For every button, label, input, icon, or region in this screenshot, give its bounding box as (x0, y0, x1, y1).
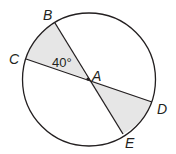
label-a: A (91, 68, 101, 84)
label-b: B (43, 7, 52, 23)
circle-diagram: B C A D E 40° (0, 0, 176, 154)
label-c: C (9, 51, 20, 67)
angle-label: 40° (52, 55, 72, 70)
chord-cd (26, 59, 152, 102)
center-point-a (86, 77, 89, 80)
label-e: E (125, 135, 135, 151)
shaded-sector-bac (26, 23, 88, 79)
label-d: D (157, 101, 167, 117)
shaded-sector-dae (88, 79, 152, 134)
